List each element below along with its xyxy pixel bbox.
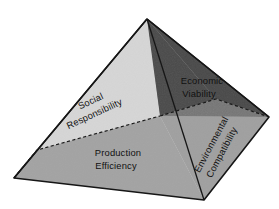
economic-viability-line1: Economic [181,75,224,86]
pyramid-graphic: Social Responsibility Economic Viability… [0,0,279,209]
economic-viability-line2: Viability [182,88,216,99]
production-efficiency-line2: Efficiency [95,160,137,171]
pyramid-diagram: Social Responsibility Economic Viability… [0,0,279,209]
scan-grain-overlay [14,19,269,200]
production-efficiency-line1: Production [95,147,141,158]
